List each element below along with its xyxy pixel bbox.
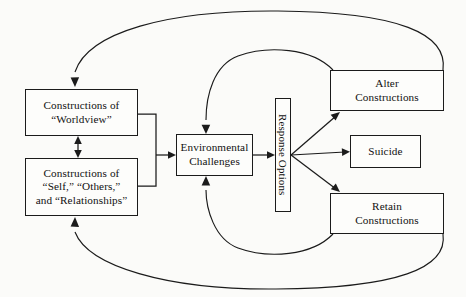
node-label-self: Constructions of “Self,” “Others,” and “… bbox=[33, 167, 131, 208]
edge-alter-to-challenges-feedback bbox=[202, 50, 333, 134]
node-label-alter-constructions: Alter Constructions bbox=[352, 77, 421, 104]
edge-worldview-self-bidirectional bbox=[74, 136, 82, 158]
node-alter-constructions[interactable]: Alter Constructions bbox=[330, 70, 444, 111]
node-label-worldview: Constructions of “Worldview” bbox=[41, 99, 123, 126]
edge-response-to-retain bbox=[291, 155, 340, 192]
node-environmental-challenges[interactable]: Environmental Challenges bbox=[176, 134, 253, 176]
node-suicide[interactable]: Suicide bbox=[350, 135, 421, 168]
edge-retain-to-challenges-feedback bbox=[202, 176, 333, 254]
edge-constructions-bracket-to-challenges bbox=[138, 114, 176, 186]
node-label-response-options: Response Options bbox=[276, 111, 289, 198]
edge-response-to-alter bbox=[291, 112, 340, 155]
node-response-options[interactable]: Response Options bbox=[275, 98, 291, 212]
node-retain-constructions[interactable]: Retain Constructions bbox=[330, 193, 444, 234]
edge-challenges-to-response-options bbox=[253, 151, 275, 159]
flowchart-diagram: Constructions of “Worldview” Constructio… bbox=[0, 0, 466, 297]
node-label-suicide: Suicide bbox=[365, 145, 405, 159]
node-constructions-of-worldview[interactable]: Constructions of “Worldview” bbox=[25, 89, 138, 136]
node-label-retain-constructions: Retain Constructions bbox=[352, 200, 421, 227]
node-label-environmental-challenges: Environmental Challenges bbox=[178, 141, 252, 168]
node-constructions-of-self-others-relationships[interactable]: Constructions of “Self,” “Others,” and “… bbox=[25, 158, 138, 216]
edge-response-to-suicide bbox=[291, 148, 350, 156]
